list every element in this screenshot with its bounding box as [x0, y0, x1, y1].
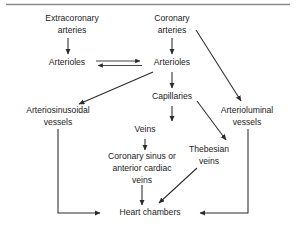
label-veins: Veins: [134, 124, 155, 134]
label-coronary-sinus-line2: anterior cardiac: [112, 163, 172, 173]
edge-arterioles-to-arteriosinusoidal: [79, 72, 153, 104]
edge-arteriosinusoidal-to-heart: [58, 129, 100, 213]
label-arterioles-right: Arterioles: [154, 57, 190, 67]
label-coronary-arteries-line2: arteries: [158, 25, 187, 35]
edge-arterioluminal-to-heart: [200, 129, 248, 213]
edge-coronary-to-arterioluminal: [196, 30, 241, 101]
node-capillaries: Capillaries: [152, 91, 192, 101]
node-arterioles-left: Arterioles: [49, 57, 85, 67]
label-coronary-arteries-line1: Coronary: [154, 13, 190, 23]
label-arterioles-left: Arterioles: [49, 57, 85, 67]
label-capillaries: Capillaries: [152, 91, 192, 101]
node-arterioluminal-vessels: Arterioluminal vessels: [221, 105, 274, 127]
coronary-circulation-flowchart: Extracoronary arteries Coronary arteries…: [0, 0, 296, 234]
label-extracoronary-arteries-line2: arteries: [58, 25, 87, 35]
node-coronary-arteries: Coronary arteries: [154, 13, 190, 35]
label-arterioluminal-line1: Arterioluminal: [221, 105, 274, 115]
node-thebesian-veins: Thebesian veins: [189, 144, 229, 166]
label-arterioluminal-line2: vessels: [233, 117, 262, 127]
figure-canvas: Extracoronary arteries Coronary arteries…: [0, 0, 296, 234]
node-arteriosinusoidal-vessels: Arteriosinusoidal vessels: [26, 105, 90, 127]
label-extracoronary-arteries-line1: Extracoronary: [45, 13, 99, 23]
label-coronary-sinus-line3: veins: [132, 175, 152, 185]
label-thebesian-veins-line2: veins: [199, 156, 219, 166]
node-heart-chambers: Heart chambers: [119, 207, 180, 217]
label-coronary-sinus-line1: Coronary sinus or: [108, 151, 176, 161]
label-arteriosinusoidal-line1: Arteriosinusoidal: [26, 105, 90, 115]
label-arteriosinusoidal-line2: vessels: [44, 117, 73, 127]
node-veins: Veins: [134, 124, 155, 134]
label-thebesian-veins-line1: Thebesian: [189, 144, 229, 154]
node-coronary-sinus: Coronary sinus or anterior cardiac veins: [108, 151, 176, 185]
node-extracoronary-arteries: Extracoronary arteries: [45, 13, 99, 35]
node-arterioles-right: Arterioles: [154, 57, 190, 67]
label-heart-chambers: Heart chambers: [119, 207, 180, 217]
